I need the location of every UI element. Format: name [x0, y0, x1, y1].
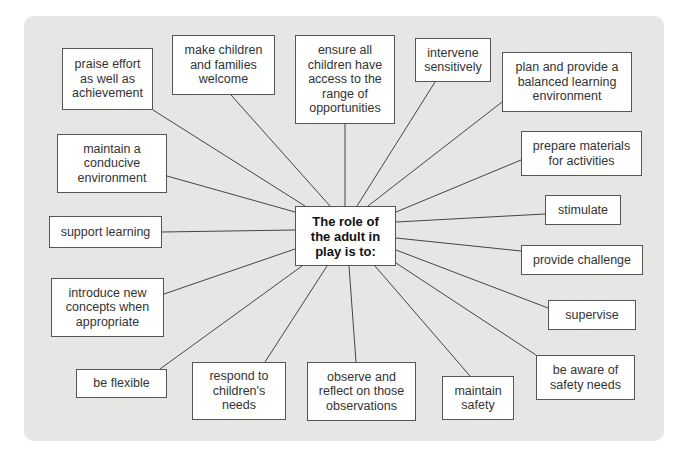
node-supervise: supervise	[548, 300, 636, 330]
connector-stimulate	[396, 214, 545, 222]
central-node: The role of the adult in play is to:	[295, 206, 396, 266]
connector-support	[162, 230, 295, 232]
node-respond: respond to children's needs	[192, 362, 286, 420]
node-maintain-env: maintain a conducive environment	[57, 134, 167, 193]
node-welcome: make children and families welcome	[172, 35, 275, 95]
node-prepare: prepare materials for activities	[521, 131, 642, 176]
connector-maintain-env	[167, 176, 295, 212]
node-praise: praise effort as well as achievement	[62, 48, 153, 110]
connector-prepare	[396, 160, 521, 212]
connector-safety	[375, 266, 470, 376]
connector-observe	[349, 266, 356, 362]
node-stimulate: stimulate	[545, 195, 621, 225]
connector-challenge	[396, 238, 521, 251]
node-ensure: ensure all children have access to the r…	[295, 35, 395, 124]
connector-respond	[265, 266, 327, 362]
connector-praise	[153, 110, 305, 206]
connector-introduce	[164, 249, 295, 294]
node-observe: observe and reflect on those observation…	[307, 362, 416, 421]
node-challenge: provide challenge	[521, 245, 643, 275]
node-flexible: be flexible	[76, 369, 167, 398]
node-plan: plan and provide a balanced learning env…	[502, 52, 632, 112]
node-introduce: introduce new concepts when appropriate	[51, 278, 164, 337]
node-safety: maintain safety	[442, 376, 514, 420]
connector-flexible	[160, 266, 302, 369]
node-support: support learning	[49, 216, 162, 248]
node-intervene: intervene sensitively	[415, 38, 491, 82]
node-aware: be aware of safety needs	[536, 355, 635, 400]
